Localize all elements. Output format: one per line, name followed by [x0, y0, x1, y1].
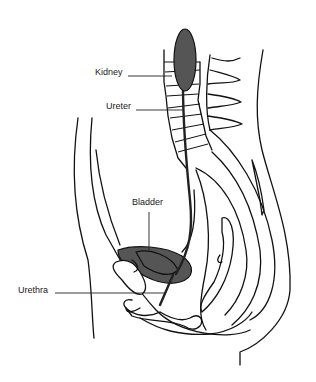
vertebra-line-6	[170, 114, 202, 118]
vertebra-line-9	[178, 144, 208, 152]
abdominal-wall-inner	[90, 118, 250, 335]
vulva-outline	[126, 308, 202, 329]
vagina-canal	[196, 170, 208, 330]
kidney-shape	[174, 29, 196, 91]
anatomy-illustration	[0, 0, 316, 382]
ureter-tube	[176, 86, 191, 274]
label-ureter: Ureter	[106, 102, 131, 111]
spine-edge	[207, 55, 210, 130]
vertebra-line-7	[172, 124, 204, 130]
sacrum-inner-1	[196, 168, 247, 315]
vertebra-process-3	[208, 94, 241, 108]
rectum-fold	[201, 218, 234, 312]
peritoneum	[96, 150, 120, 245]
abdominal-wall-outer	[74, 118, 94, 338]
vertebra-process-4	[208, 116, 242, 130]
label-bladder: Bladder	[132, 198, 163, 207]
labia	[124, 300, 140, 312]
vertebra-process-1	[212, 58, 240, 61]
vertebra-line-8	[175, 134, 206, 142]
label-urethra: Urethra	[18, 286, 48, 295]
label-kidney: Kidney	[95, 68, 123, 77]
vertebral-column-right	[198, 62, 212, 150]
urinary-tract-diagram: Kidney Ureter Bladder Urethra	[0, 0, 316, 382]
vertebra-process-2	[208, 70, 240, 84]
